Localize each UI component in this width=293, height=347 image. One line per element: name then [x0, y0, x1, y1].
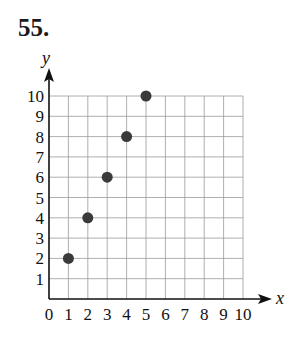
y-tick-label: 5 [36, 189, 45, 208]
data-point [63, 253, 74, 264]
x-tick-label: 0 [45, 305, 54, 324]
y-axis-label: y [40, 48, 50, 68]
x-tick-label: 7 [181, 305, 190, 324]
x-tick-label: 10 [235, 305, 252, 324]
scatter-plot: xy01234567891012345678910 [0, 0, 293, 347]
y-tick-label: 1 [36, 270, 45, 289]
y-tick-label: 9 [36, 107, 45, 126]
y-tick-label: 6 [36, 168, 45, 187]
x-tick-label: 4 [122, 305, 131, 324]
x-axis-label: x [275, 288, 284, 308]
x-tick-label: 3 [103, 305, 112, 324]
data-point [141, 91, 152, 102]
x-tick-label: 2 [84, 305, 93, 324]
x-tick-label: 9 [219, 305, 228, 324]
x-tick-label: 8 [200, 305, 209, 324]
data-point [121, 131, 132, 142]
data-point [102, 172, 113, 183]
x-tick-label: 5 [142, 305, 151, 324]
y-tick-label: 10 [27, 87, 44, 106]
y-tick-label: 4 [36, 209, 45, 228]
x-tick-label: 6 [161, 305, 170, 324]
data-point [82, 212, 93, 223]
x-tick-label: 1 [64, 305, 73, 324]
y-tick-label: 7 [36, 148, 45, 167]
y-tick-label: 2 [36, 249, 45, 268]
y-tick-label: 3 [36, 229, 45, 248]
y-tick-label: 8 [36, 128, 45, 147]
